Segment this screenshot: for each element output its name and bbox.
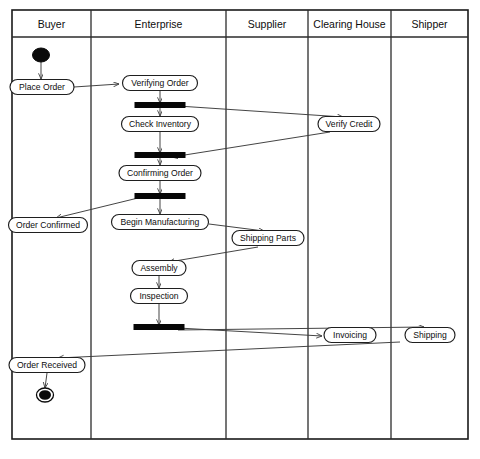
node-order-received[interactable]: Order Received [9, 358, 85, 373]
node-invoicing[interactable]: Invoicing [324, 328, 376, 343]
node-confirming-order[interactable]: Confirming Order [119, 166, 201, 181]
lane-header-enterprise: Enterprise [135, 18, 183, 30]
sync-bar [135, 194, 185, 199]
node-place-order[interactable]: Place Order [10, 80, 74, 95]
node-label: Verify Credit [326, 119, 373, 129]
final-node-core [39, 390, 51, 400]
node-label: Shipping [413, 330, 447, 340]
node-fork-2[interactable] [135, 194, 185, 199]
node-label: Order Confirmed [16, 220, 80, 230]
node-label: Place Order [19, 82, 65, 92]
node-begin-manufacturing[interactable]: Begin Manufacturing [112, 215, 209, 230]
node-fork-3[interactable] [134, 325, 184, 330]
node-label: Invoicing [333, 330, 367, 340]
activity-diagram-canvas: BuyerEnterpriseSupplierClearing HouseShi… [0, 0, 480, 459]
node-order-confirmed[interactable]: Order Confirmed [9, 218, 88, 233]
node-label: Assembly [140, 263, 178, 273]
node-label: Inspection [139, 291, 178, 301]
lane-header-buyer: Buyer [38, 18, 66, 30]
node-start[interactable] [33, 48, 50, 62]
uml-activity-diagram: BuyerEnterpriseSupplierClearing HouseShi… [0, 0, 480, 459]
node-join-1[interactable] [135, 153, 185, 158]
node-check-inventory[interactable]: Check Inventory [122, 117, 199, 132]
sync-bar [135, 103, 185, 108]
lane-header-supplier: Supplier [248, 18, 287, 30]
sync-bar [134, 325, 184, 330]
node-label: Verifying Order [131, 78, 188, 88]
node-fork-1[interactable] [135, 103, 185, 108]
node-verify-credit[interactable]: Verify Credit [318, 117, 380, 132]
lane-header-clearing-house: Clearing House [313, 18, 386, 30]
node-label: Shipping Parts [240, 233, 296, 243]
node-shipping-parts[interactable]: Shipping Parts [232, 231, 304, 246]
node-label: Confirming Order [127, 168, 193, 178]
sync-bar [135, 153, 185, 158]
node-label: Begin Manufacturing [121, 217, 200, 227]
node-inspection[interactable]: Inspection [131, 289, 188, 304]
node-shipping[interactable]: Shipping [405, 328, 455, 343]
node-verifying-order[interactable]: Verifying Order [123, 76, 198, 91]
lane-header-shipper: Shipper [411, 18, 448, 30]
initial-node-marker [33, 48, 50, 62]
node-label: Order Received [17, 360, 77, 370]
node-assembly[interactable]: Assembly [132, 261, 186, 276]
node-label: Check Inventory [129, 119, 192, 129]
